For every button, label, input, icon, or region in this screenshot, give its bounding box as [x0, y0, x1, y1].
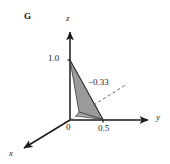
figure-container: G z y x 1.0 0 0.5 −0.33 [0, 0, 170, 164]
y-tick-label: 0.5 [98, 124, 109, 133]
origin-label: 0 [66, 123, 71, 132]
axes-diagram [0, 0, 170, 164]
panel-letter: G [24, 12, 31, 21]
slope-annotation-label: −0.33 [88, 78, 109, 87]
z-tick-label: 1.0 [48, 54, 59, 63]
z-axis-label: z [66, 14, 70, 23]
y-axis-label: y [156, 113, 160, 122]
x-axis-line [24, 120, 70, 148]
x-axis-label: x [9, 149, 13, 158]
